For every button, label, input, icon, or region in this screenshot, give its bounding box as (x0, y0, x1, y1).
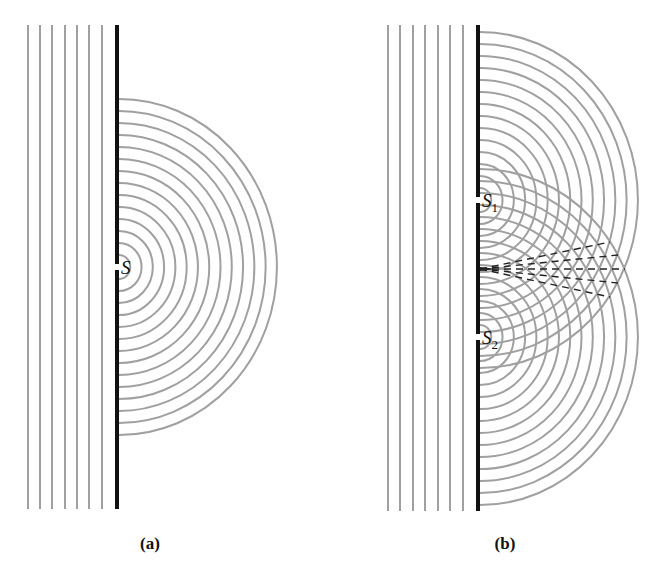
panel-b: S1S2(b) (388, 25, 638, 553)
panel-caption: (b) (495, 534, 516, 553)
wave-diagram: S(a)S1S2(b) (0, 0, 647, 576)
panel-caption: (a) (140, 534, 160, 553)
circular-wavefront (119, 135, 243, 399)
circular-wavefront (119, 159, 221, 375)
slit-label: S (121, 257, 131, 278)
double-slit-figure: S(a)S1S2(b) (0, 0, 647, 576)
panel-a: S(a) (28, 25, 277, 553)
